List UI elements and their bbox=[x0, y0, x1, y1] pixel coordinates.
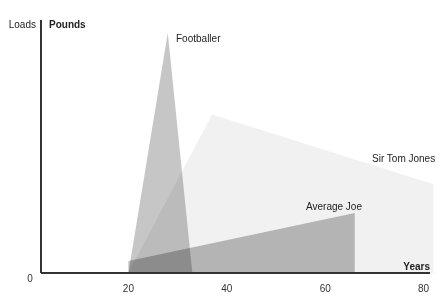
y-origin-label: 0 bbox=[27, 273, 33, 284]
x-tick-40: 40 bbox=[221, 283, 233, 294]
x-tick-labels: 20406080 bbox=[123, 283, 430, 294]
y-axis-label-pounds: Pounds bbox=[49, 19, 86, 30]
label-average-joe: Average Joe bbox=[306, 201, 362, 212]
chart: Loads Pounds Years 0 20406080 Footballer… bbox=[0, 0, 446, 305]
y-axis-label-loads: Loads bbox=[9, 19, 36, 30]
label-sir-tom-jones: Sir Tom Jones bbox=[372, 153, 435, 164]
x-tick-60: 60 bbox=[320, 283, 332, 294]
area-footballer bbox=[128, 33, 192, 273]
x-tick-80: 80 bbox=[418, 283, 430, 294]
x-tick-20: 20 bbox=[123, 283, 135, 294]
x-axis-label: Years bbox=[403, 261, 430, 272]
label-footballer: Footballer bbox=[176, 33, 221, 44]
